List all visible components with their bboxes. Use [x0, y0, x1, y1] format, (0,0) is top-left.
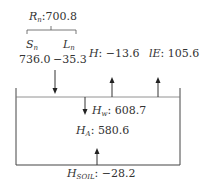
le-label: lE: 105.6 [149, 48, 199, 60]
ln-value: −35.3 [53, 54, 87, 66]
sn-symbol: Sn [26, 39, 38, 54]
h-arrowhead-icon [110, 77, 115, 83]
rn-label: Rn:700.8 [29, 11, 77, 26]
ln-symbol: Ln [63, 39, 75, 54]
le-arrowhead-icon [156, 77, 161, 83]
hw-arrowhead-icon [83, 109, 88, 115]
sn-value: 736.0 [19, 54, 51, 66]
hw-label: Hw: 608.7 [92, 105, 146, 120]
diagram-lines [0, 0, 203, 185]
rn-arrowhead-icon [53, 88, 58, 94]
hsoil-arrowhead-icon [95, 148, 100, 154]
rn-bracket [27, 26, 76, 34]
h-label: H: −13.6 [89, 48, 140, 60]
hsoil-label: HSOIL: −28.2 [67, 168, 135, 183]
ha-label: HA: 580.6 [76, 125, 129, 140]
